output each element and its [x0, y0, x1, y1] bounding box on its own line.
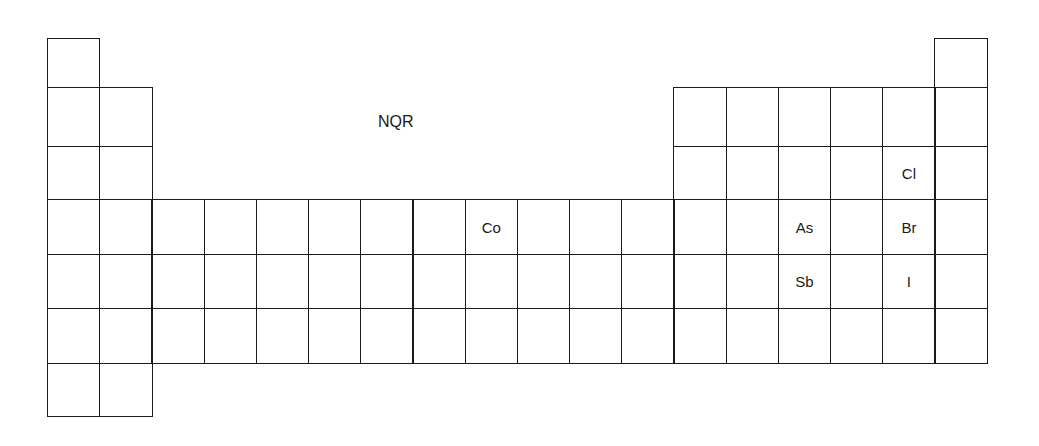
element-cell — [934, 199, 987, 255]
element-cell — [830, 146, 883, 200]
element-cell-cl: Cl — [882, 146, 935, 200]
element-cell-co: Co — [465, 199, 518, 255]
element-cell — [360, 308, 413, 364]
element-symbol: I — [907, 273, 911, 290]
element-cell — [256, 254, 309, 309]
element-symbol: Br — [901, 219, 916, 236]
element-cell — [47, 146, 100, 200]
element-cell — [673, 254, 726, 309]
element-cell — [673, 308, 726, 364]
element-cell — [99, 254, 152, 309]
element-cell — [673, 87, 726, 147]
element-cell — [934, 254, 987, 309]
element-cell-as: As — [778, 199, 831, 255]
element-cell-br: Br — [882, 199, 935, 255]
element-cell — [934, 146, 987, 200]
element-cell — [778, 146, 831, 200]
element-cell — [360, 254, 413, 309]
element-cell — [621, 308, 674, 364]
element-cell — [778, 308, 831, 364]
element-cell — [465, 308, 518, 364]
element-cell — [308, 199, 361, 255]
element-cell — [204, 199, 257, 255]
element-cell — [47, 38, 100, 88]
diagram-title: NQR — [378, 113, 414, 131]
element-cell — [204, 254, 257, 309]
element-cell — [830, 199, 883, 255]
element-cell — [830, 308, 883, 364]
element-cell — [726, 254, 779, 309]
element-symbol: Co — [482, 219, 501, 236]
element-cell — [882, 87, 935, 147]
element-cell — [99, 87, 152, 147]
element-cell — [47, 87, 100, 147]
element-cell — [830, 254, 883, 309]
element-cell — [47, 254, 100, 309]
element-cell — [204, 308, 257, 364]
element-cell — [47, 363, 100, 417]
element-cell — [726, 146, 779, 200]
element-cell — [621, 199, 674, 255]
element-cell-sb: Sb — [778, 254, 831, 309]
element-cell — [778, 87, 831, 147]
element-cell — [47, 308, 100, 364]
element-cell — [256, 199, 309, 255]
element-cell — [726, 199, 779, 255]
element-cell — [465, 254, 518, 309]
element-cell — [517, 199, 570, 255]
element-cell — [256, 308, 309, 364]
element-cell-i: I — [882, 254, 935, 309]
element-cell — [726, 87, 779, 147]
element-cell — [99, 199, 152, 255]
element-cell — [99, 146, 152, 200]
element-cell — [47, 199, 100, 255]
element-cell — [412, 199, 465, 255]
element-symbol: Cl — [902, 165, 916, 182]
element-cell — [882, 308, 935, 364]
element-cell — [934, 308, 987, 364]
element-cell — [830, 87, 883, 147]
element-cell — [151, 254, 204, 309]
element-cell — [569, 308, 622, 364]
element-cell — [517, 254, 570, 309]
element-symbol: Sb — [795, 273, 813, 290]
element-symbol: As — [796, 219, 814, 236]
element-cell — [151, 308, 204, 364]
element-cell — [99, 308, 152, 364]
element-cell — [569, 199, 622, 255]
element-cell — [517, 308, 570, 364]
element-cell — [621, 254, 674, 309]
element-cell — [726, 308, 779, 364]
element-cell — [934, 38, 987, 88]
element-cell — [673, 199, 726, 255]
element-cell — [151, 199, 204, 255]
element-cell — [412, 308, 465, 364]
element-cell — [360, 199, 413, 255]
element-cell — [308, 254, 361, 309]
element-cell — [673, 146, 726, 200]
element-cell — [934, 87, 987, 147]
element-cell — [308, 308, 361, 364]
element-cell — [569, 254, 622, 309]
element-cell — [412, 254, 465, 309]
element-cell — [99, 363, 152, 417]
